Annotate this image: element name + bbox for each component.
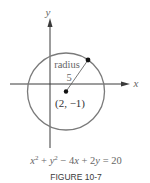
y-axis-arrow-icon xyxy=(48,18,53,27)
x-axis-label: x xyxy=(133,77,139,89)
circle-equation: x2 + y2 − 4x + 2y = 20 xyxy=(29,154,121,166)
circle-point xyxy=(86,58,91,63)
radius-value: 5 xyxy=(66,72,71,83)
x-axis-arrow-icon xyxy=(121,82,130,87)
center-label: (2, −1) xyxy=(55,97,85,110)
center-point xyxy=(64,89,68,93)
radius-label: radius xyxy=(54,59,80,70)
figure-caption: FIGURE 10-7 xyxy=(50,172,102,182)
y-axis-label: y xyxy=(45,6,51,18)
circle-figure: y x radius 5 (2, −1) x2 + y2 − 4x + 2y =… xyxy=(0,0,150,183)
